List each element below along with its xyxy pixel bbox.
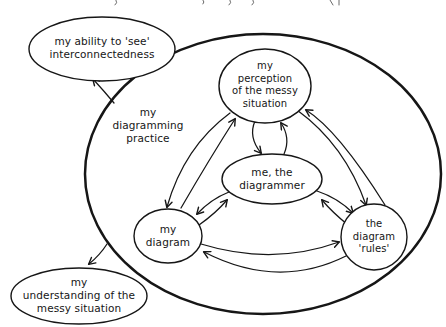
node-label-my-understanding: my understanding of the messy situation <box>9 276 149 315</box>
edge-my-diagram-to-diagrammer <box>199 200 227 225</box>
edge-practice-to-understanding <box>89 244 107 264</box>
edge-perception-to-diagrammer <box>253 121 261 153</box>
edge-practice-to-ability <box>93 79 114 103</box>
node-label-my-ability: my ability to 'see' interconnectedness <box>27 35 177 61</box>
cropped-title-descenders <box>115 0 339 5</box>
diagram-canvas: my ability to 'see' interconnectedness m… <box>0 0 446 327</box>
node-label-me-the-diagrammer: me, the diagrammer <box>222 166 322 192</box>
boundary-label-my-diagramming-practice: my diagramming practice <box>103 106 193 145</box>
edge-my-diagram-to-rules <box>201 242 339 255</box>
edge-diagrammer-to-perception <box>281 123 287 154</box>
edge-diagrammer-to-rules <box>317 191 353 213</box>
node-label-my-diagram: my diagram <box>128 223 208 249</box>
node-label-my-perception: my perception of the messy situation <box>218 60 312 110</box>
node-label-the-diagram-rules: the diagram 'rules' <box>334 218 414 256</box>
